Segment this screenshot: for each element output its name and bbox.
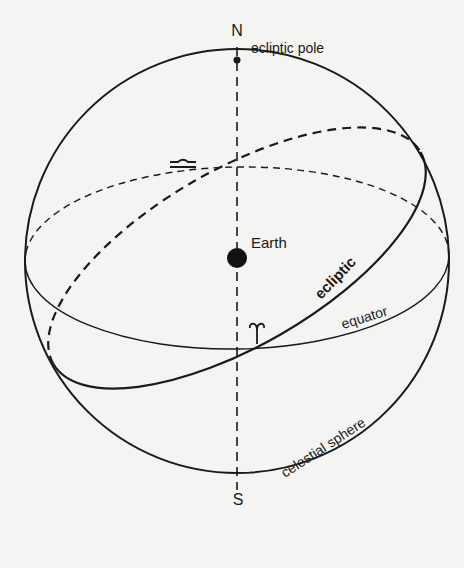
equator-label: equator bbox=[339, 303, 389, 332]
north-label: N bbox=[231, 22, 243, 39]
ecliptic-pole-dot bbox=[234, 57, 241, 64]
ecliptic-front-solid bbox=[53, 152, 464, 440]
celestial-sphere-diagram: N S ecliptic pole Earth ecliptic equator… bbox=[0, 0, 464, 568]
earth-label: Earth bbox=[251, 234, 287, 251]
ecliptic-label: ecliptic bbox=[311, 253, 359, 302]
earth-dot bbox=[227, 248, 247, 268]
ecliptic-pole-label: ecliptic pole bbox=[251, 40, 324, 56]
aries-symbol-icon bbox=[250, 324, 264, 344]
libra-symbol-icon bbox=[170, 160, 196, 167]
south-label: S bbox=[233, 491, 244, 508]
diagram-canvas: N S ecliptic pole Earth ecliptic equator… bbox=[0, 0, 464, 568]
celestial-sphere-label: celestial sphere bbox=[278, 414, 368, 481]
